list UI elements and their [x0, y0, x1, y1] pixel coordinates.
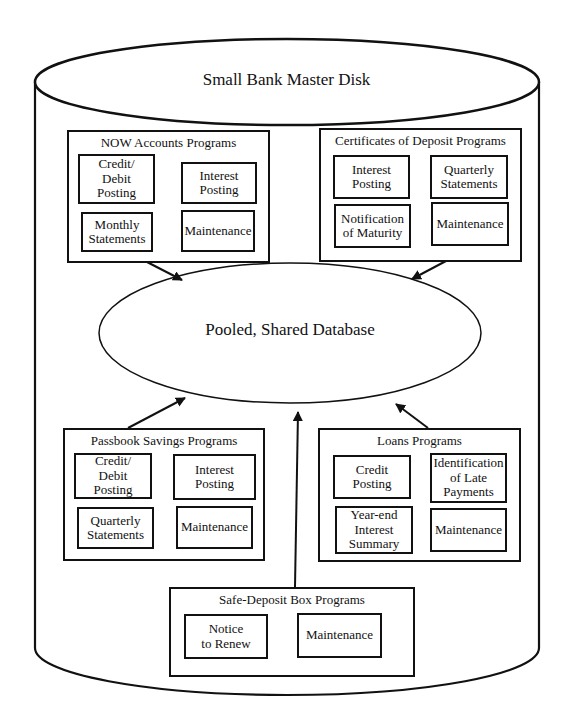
- group-title: NOW Accounts Programs: [69, 135, 268, 151]
- program-label: Year-end Interest Summary: [349, 508, 400, 552]
- program-maintenance: Maintenance: [176, 506, 253, 549]
- group-now-accounts: NOW Accounts Programs Credit/ Debit Post…: [67, 130, 270, 263]
- group-passbook-savings: Passbook Savings Programs Credit/ Debit …: [63, 428, 265, 561]
- program-label: Credit/ Debit Posting: [97, 157, 136, 201]
- program-interest-posting: Interest Posting: [181, 162, 257, 204]
- program-label: Quarterly Statements: [87, 514, 144, 543]
- program-label: Credit Posting: [352, 463, 391, 492]
- program-maintenance: Maintenance: [430, 508, 507, 552]
- program-label: Maintenance: [306, 628, 373, 643]
- group-loans: Loans Programs Credit Posting Identifica…: [318, 428, 521, 562]
- group-title: Loans Programs: [320, 433, 519, 449]
- group-title: Passbook Savings Programs: [65, 433, 263, 449]
- program-maintenance: Maintenance: [297, 613, 382, 658]
- program-label: Maintenance: [435, 523, 502, 538]
- program-interest-posting: Interest Posting: [173, 454, 256, 500]
- group-title: Certificates of Deposit Programs: [321, 133, 520, 149]
- program-notice-to-renew: Notice to Renew: [184, 614, 268, 659]
- program-credit-debit-posting: Credit/ Debit Posting: [78, 154, 155, 204]
- group-certificates-of-deposit: Certificates of Deposit Programs Interes…: [319, 128, 522, 262]
- program-year-end-interest-summary: Year-end Interest Summary: [335, 506, 413, 554]
- group-safe-deposit-box: Safe-Deposit Box Programs Notice to Rene…: [169, 587, 415, 677]
- program-quarterly-statements: Quarterly Statements: [77, 507, 154, 549]
- program-label: Credit/ Debit Posting: [93, 454, 132, 498]
- group-title: Safe-Deposit Box Programs: [171, 592, 413, 608]
- program-label: Interest Posting: [199, 169, 238, 198]
- program-label: Interest Posting: [195, 463, 234, 492]
- program-label: Interest Posting: [352, 163, 391, 192]
- program-label: Identification of Late Payments: [433, 456, 503, 500]
- program-monthly-statements: Monthly Statements: [81, 212, 153, 252]
- program-label: Maintenance: [436, 217, 503, 232]
- program-notification-of-maturity: Notification of Maturity: [334, 204, 411, 248]
- program-identification-of-late-payments: Identification of Late Payments: [430, 453, 507, 503]
- program-credit-posting: Credit Posting: [333, 455, 411, 499]
- program-interest-posting: Interest Posting: [333, 155, 410, 199]
- disk-title: Small Bank Master Disk: [0, 70, 573, 90]
- program-label: Quarterly Statements: [440, 163, 497, 192]
- program-credit-debit-posting: Credit/ Debit Posting: [74, 453, 152, 499]
- program-label: Maintenance: [184, 224, 251, 239]
- program-maintenance: Maintenance: [431, 202, 509, 246]
- program-maintenance: Maintenance: [181, 210, 255, 252]
- program-label: Monthly Statements: [88, 218, 145, 247]
- program-label: Maintenance: [181, 520, 248, 535]
- database-title: Pooled, Shared Database: [100, 320, 480, 340]
- program-label: Notice to Renew: [201, 622, 250, 651]
- program-quarterly-statements: Quarterly Statements: [430, 155, 508, 199]
- program-label: Notification of Maturity: [341, 212, 404, 241]
